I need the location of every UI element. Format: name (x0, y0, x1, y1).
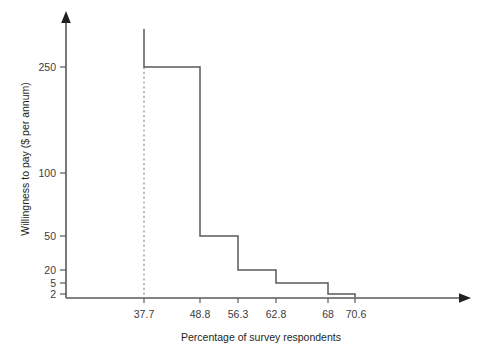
y-tick-label-50: 50 (44, 230, 56, 242)
y-tick-labels-group: 250 100 50 20 5 2 (38, 61, 56, 300)
x-axis-title: Percentage of survey respondents (181, 331, 341, 343)
step-chart-svg: 250 100 50 20 5 2 Willingness to pay ($ … (0, 0, 493, 355)
x-axis-arrowhead (459, 293, 471, 303)
y-tick-label-20: 20 (44, 264, 56, 276)
x-tick-label-70-6: 70.6 (346, 308, 367, 320)
y-tick-label-2: 2 (50, 288, 56, 300)
axes-group (61, 11, 471, 303)
y-axis-arrowhead (61, 11, 71, 23)
x-tick-labels-group: 37.7 48.8 56.3 62.8 68 70.6 (134, 308, 367, 320)
x-tick-label-48-8: 48.8 (190, 308, 211, 320)
x-tick-label-37-7: 37.7 (134, 308, 155, 320)
y-tick-label-250: 250 (38, 61, 56, 73)
y-tick-label-100: 100 (38, 167, 56, 179)
y-axis-title: Willingness to pay ($ per annum) (19, 82, 31, 236)
y-ticks-group (60, 67, 66, 294)
x-tick-label-62-8: 62.8 (266, 308, 287, 320)
x-tick-label-68: 68 (322, 308, 334, 320)
x-tick-label-56-3: 56.3 (228, 308, 249, 320)
willingness-to-pay-step-series (144, 29, 355, 297)
chart-container: 250 100 50 20 5 2 Willingness to pay ($ … (0, 0, 493, 355)
